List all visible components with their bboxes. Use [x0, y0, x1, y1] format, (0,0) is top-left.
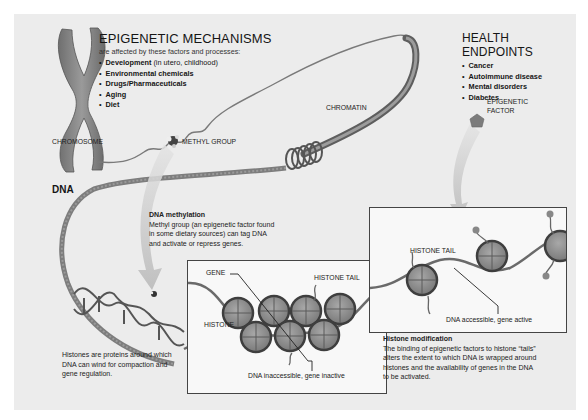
methyl-group-icon	[167, 135, 180, 148]
open-nucleosomes	[370, 208, 566, 332]
epigenetic-mechanisms-subtitle: are affected by these factors and proces…	[99, 47, 299, 56]
list-item: Drugs/Pharmaceuticals	[99, 79, 299, 90]
epigenetic-mechanisms-block: EPIGENETIC MECHANISMS are affected by th…	[99, 31, 299, 111]
list-item: Environmental chemicals	[99, 69, 299, 80]
dna-inaccessible-label: DNA inaccessible, gene inactive	[248, 372, 345, 379]
dna-label: DNA	[52, 184, 74, 195]
chromosome-label: CHROMOSOME	[52, 138, 103, 145]
histones-note: Histones are proteins around which DNA c…	[62, 350, 197, 379]
list-item: Diet	[99, 100, 299, 111]
list-item: Aging	[99, 90, 299, 101]
health-endpoints-block: HEALTH ENDPOINTS Cancer Autoimmune disea…	[462, 31, 572, 103]
histone-modification-title: Histone modification	[383, 334, 568, 344]
panel-gene-inactive: GENE HISTONE TAIL HISTONE DNA inaccessib…	[187, 260, 387, 394]
panel-gene-active: HISTONE TAIL DNA accessible, gene active	[369, 207, 567, 333]
epigenetic-mechanisms-title: EPIGENETIC MECHANISMS	[99, 31, 299, 46]
histone-tail-label-inactive: HISTONE TAIL	[314, 274, 360, 281]
diagram-canvas: GENE HISTONE TAIL HISTONE DNA inaccessib…	[14, 14, 576, 410]
histone-tail-label-active: HISTONE TAIL	[410, 247, 456, 254]
epigenetic-factors-list: Development (in utero, childhood) Enviro…	[99, 58, 299, 111]
list-item: Development (in utero, childhood)	[99, 58, 299, 69]
dna-accessible-label: DNA accessible, gene active	[446, 316, 532, 323]
epigenetic-factor-icon	[470, 114, 484, 127]
chromatin-label: CHROMATIN	[326, 104, 367, 111]
epigenetic-factor-label: EPIGENETIC FACTOR	[487, 97, 528, 115]
list-item: Mental disorders	[462, 82, 572, 93]
histone-label: HISTONE	[204, 321, 234, 328]
methyl-tag-icon	[151, 291, 157, 297]
list-item: Autoimmune disease	[462, 72, 572, 83]
dna-methylation-block: DNA methylation Methyl group (an epigene…	[149, 210, 309, 248]
epigenetic-factor-arrow	[450, 124, 480, 220]
histone-modification-block: Histone modification The binding of epig…	[383, 334, 568, 382]
health-endpoints-title: HEALTH ENDPOINTS	[462, 31, 572, 59]
gene-label: GENE	[206, 269, 225, 276]
list-item: Cancer	[462, 61, 572, 72]
methyl-group-label: METHYL GROUP	[182, 138, 236, 145]
dna-methylation-title: DNA methylation	[149, 210, 309, 220]
